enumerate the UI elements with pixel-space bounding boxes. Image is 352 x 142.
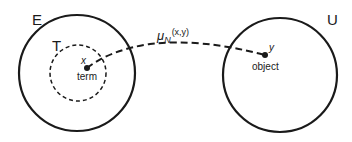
mapping-dashed-arc — [87, 42, 265, 68]
mapping-subscript: N — [164, 35, 171, 45]
set-u-label: U — [327, 12, 338, 27]
set-t-label: T — [52, 38, 61, 53]
mapping-label: μN(x,y) — [157, 27, 189, 43]
set-e-label: E — [32, 12, 42, 27]
mapping-args: (x,y) — [172, 27, 190, 37]
point-x-caption: term — [77, 72, 97, 82]
point-x-label: x — [81, 56, 86, 66]
point-y-dot — [262, 52, 268, 58]
diagram-canvas — [0, 0, 352, 142]
set-u-circle — [223, 18, 337, 132]
point-y-caption: object — [252, 62, 279, 72]
point-y-label: y — [269, 43, 274, 53]
